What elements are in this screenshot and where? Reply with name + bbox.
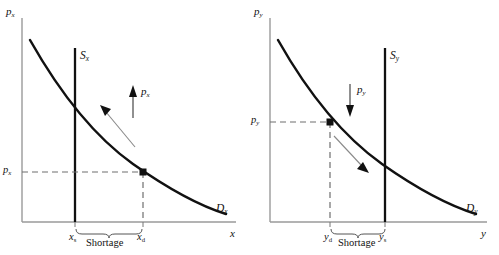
left-equilibrium-marker bbox=[140, 169, 147, 176]
right-horizontal-axis-label: y bbox=[481, 228, 486, 239]
left-quantity-supplied-label: xs bbox=[69, 232, 76, 243]
figure-canvas bbox=[0, 0, 499, 255]
right-curve-arrow-head bbox=[357, 162, 369, 173]
left-price-arrow-head bbox=[129, 85, 137, 97]
left-price-arrow-label: px bbox=[141, 86, 150, 97]
right-equilibrium-marker bbox=[327, 119, 334, 126]
right-vertical-axis-label: py bbox=[254, 6, 263, 17]
right-supply-curve-label: Sy bbox=[390, 50, 399, 62]
left-demand-curve bbox=[30, 40, 226, 214]
right-price-level-label: py bbox=[251, 115, 259, 126]
right-quantity-supplied-label: ys bbox=[379, 232, 386, 243]
panel-left bbox=[22, 18, 236, 238]
supply-demand-figure: px x Sx Dx px xs xd Shortage px py y Sy … bbox=[0, 0, 499, 255]
left-quantity-demanded-label: xd bbox=[137, 232, 145, 243]
panel-right bbox=[270, 18, 487, 238]
left-shortage-label: Shortage bbox=[86, 238, 123, 249]
left-demand-curve-label: Dx bbox=[216, 203, 228, 215]
left-curve-arrow-head bbox=[100, 105, 111, 116]
right-demand-curve bbox=[278, 40, 476, 214]
left-horizontal-axis-label: x bbox=[230, 228, 235, 239]
left-curve-arrow-shaft bbox=[106, 112, 135, 147]
right-price-arrow-head bbox=[346, 105, 354, 117]
left-price-level-label: px bbox=[3, 165, 11, 176]
right-shortage-label: Shortage bbox=[338, 238, 375, 249]
right-curve-arrow-shaft bbox=[334, 136, 362, 166]
left-vertical-axis-label: px bbox=[6, 6, 15, 17]
left-supply-curve-label: Sx bbox=[80, 50, 89, 62]
right-quantity-demanded-label: yd bbox=[324, 232, 332, 243]
right-price-arrow-label: py bbox=[357, 84, 366, 95]
right-demand-curve-label: Dy bbox=[466, 203, 478, 215]
